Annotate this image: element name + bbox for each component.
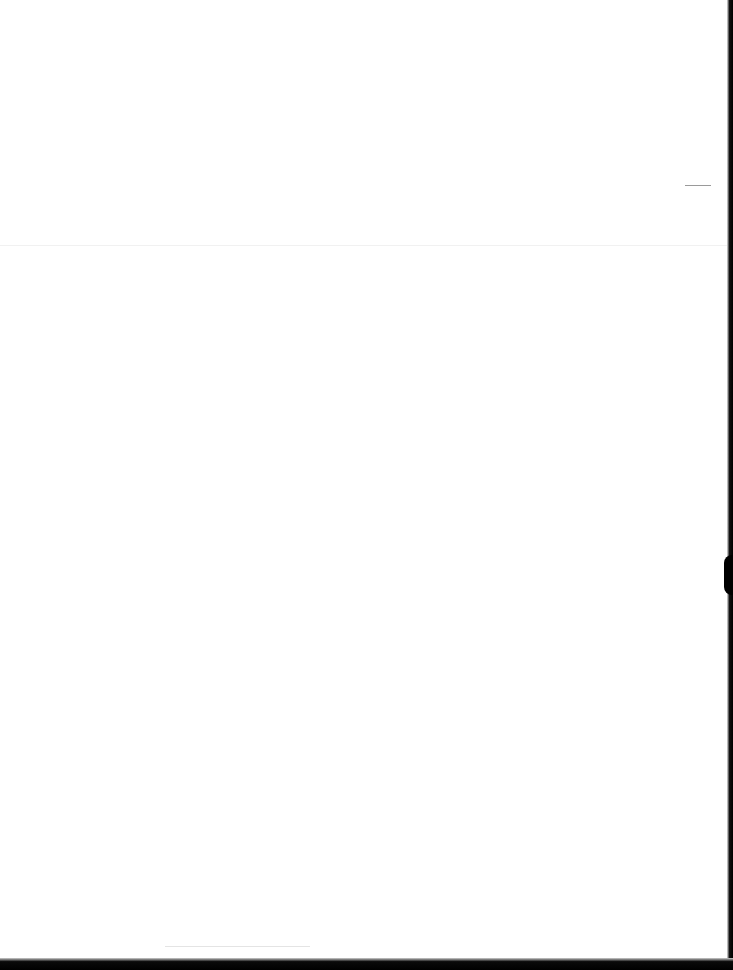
faint-bottom-mark bbox=[165, 946, 310, 947]
scan-edge-notch bbox=[724, 555, 733, 595]
scan-edge-right bbox=[727, 0, 733, 970]
stray-mark bbox=[685, 185, 711, 186]
fold-line bbox=[0, 245, 727, 246]
blank-scanned-page bbox=[0, 0, 727, 958]
scan-edge-bottom bbox=[0, 958, 733, 970]
